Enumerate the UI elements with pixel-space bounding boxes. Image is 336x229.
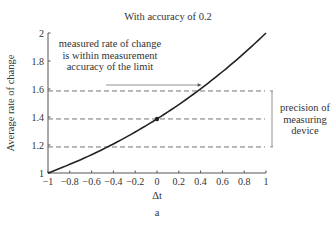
chart: With accuracy of 0.2 Average rate of cha…	[0, 0, 336, 229]
x-tick-label: 1	[264, 176, 269, 187]
panel-label: a	[155, 207, 160, 218]
x-tick-label: −0.4	[104, 176, 122, 187]
y-tick-label: 2	[39, 28, 44, 39]
annotation-text: device	[291, 125, 319, 136]
x-tick-label: 0.4	[194, 176, 207, 187]
y-tick-label: 1.2	[32, 140, 45, 151]
annotation-text: measuring	[283, 114, 327, 125]
y-tick-label: 1.8	[32, 56, 45, 67]
annotation-text: accuracy of the limit	[67, 61, 154, 72]
x-tick-label: 0.8	[238, 176, 251, 187]
y-axis-label: Average rate of change	[5, 54, 16, 151]
y-tick-label: 1.4	[32, 112, 45, 123]
y-tick-label: 1	[39, 168, 44, 179]
annotation-text: precision of	[280, 102, 330, 113]
x-tick-label: −0.8	[61, 176, 79, 187]
title-text: With accuracy of 0.2	[124, 11, 212, 22]
x-tick-label: −0.6	[83, 176, 101, 187]
annotation-text: is within measurement	[62, 50, 157, 61]
ylabel-text: Average rate of change	[5, 54, 16, 151]
x-tick-label: −0.2	[126, 176, 144, 187]
arrow-head-icon	[198, 83, 202, 87]
x-tick-label: 0.6	[216, 176, 229, 187]
x-tick-label: 0	[155, 176, 160, 187]
y-tick-label: 1.6	[32, 84, 45, 95]
chart-title: With accuracy of 0.2	[124, 11, 212, 22]
x-axis-label: Δt	[152, 190, 162, 201]
x-tick-label: −1	[43, 176, 54, 187]
x-tick-label: 0.2	[173, 176, 186, 187]
annotation-text: measured rate of change	[59, 38, 162, 49]
limit-point	[155, 117, 159, 121]
